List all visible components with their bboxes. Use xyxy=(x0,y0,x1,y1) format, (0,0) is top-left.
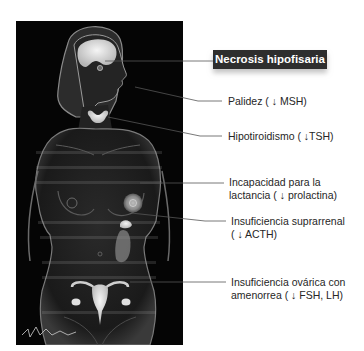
mammary-gland-icon xyxy=(124,194,143,213)
label-palidez: Palidez ( ↓ MSH) xyxy=(228,95,307,108)
label-line: Palidez ( ↓ MSH) xyxy=(228,95,307,108)
label-lactancia: Incapacidad para la lactancia ( ↓ prolac… xyxy=(229,176,337,202)
label-suprarrenal: Insuficiencia suprarrenal ( ↓ ACTH) xyxy=(231,215,345,241)
label-line: Insuficiencia ovárica con xyxy=(231,276,345,289)
anatomical-illustration xyxy=(16,21,183,345)
label-line: Insuficiencia suprarrenal xyxy=(231,215,345,228)
label-line: amenorrea ( ↓ FSH, LH) xyxy=(231,289,345,302)
label-line: ( ↓ ACTH) xyxy=(231,228,345,241)
right-arm-outline xyxy=(162,171,170,261)
label-ovarica: Insuficiencia ovárica con amenorrea ( ↓ … xyxy=(231,276,345,302)
label-line: lactancia ( ↓ prolactina) xyxy=(229,189,337,202)
label-line: Hipotiroidismo ( ↓TSH) xyxy=(228,130,334,143)
pituitary-icon xyxy=(97,65,102,70)
female-body-figure xyxy=(16,21,183,345)
label-line: Incapacidad para la xyxy=(229,176,337,189)
title-necrosis-hipofisaria: Necrosis hipofisaria xyxy=(213,50,327,69)
label-hipotiroidismo: Hipotiroidismo ( ↓TSH) xyxy=(228,130,334,143)
